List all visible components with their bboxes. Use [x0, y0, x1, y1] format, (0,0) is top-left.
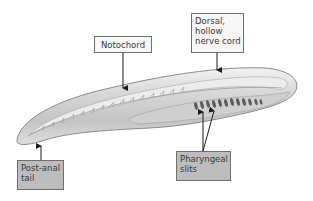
tail-label-line-1: Post-anal — [21, 163, 60, 173]
nerve-cord-label: Dorsal, hollow nerve cord — [191, 13, 244, 53]
nerve-cord-label-line-2: hollow — [195, 26, 240, 36]
post-anal-tail-label: Post-anal tail — [17, 160, 64, 190]
notochord-label: Notochord — [94, 36, 152, 53]
notochord-label-text: Notochord — [98, 40, 148, 50]
tail-label-line-2: tail — [21, 173, 60, 183]
slits-label-line-2: slits — [180, 164, 227, 174]
nerve-cord-label-line-3: nerve cord — [195, 36, 240, 46]
nerve-cord-label-line-1: Dorsal, — [195, 16, 240, 26]
chordate-diagram: Notochord Dorsal, hollow nerve cord Post… — [0, 0, 313, 201]
pharyngeal-slits-label: Pharyngeal slits — [176, 151, 231, 181]
slits-label-line-1: Pharyngeal — [180, 154, 227, 164]
